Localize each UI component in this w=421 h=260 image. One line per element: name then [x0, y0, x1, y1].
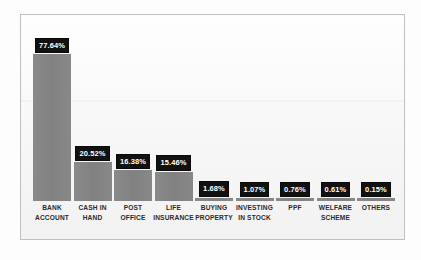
- bar-value-label: 77.64%: [35, 38, 69, 54]
- bar-group[interactable]: 0.76%: [276, 182, 314, 202]
- category-label: OTHERS: [349, 203, 403, 213]
- bar-value-label: 0.76%: [280, 182, 310, 198]
- bars-area: 77.64%BANKACCOUNT20.52%CASH INHAND16.38%…: [24, 14, 402, 240]
- category-label-line: OTHERS: [349, 203, 403, 213]
- bar-value-label: 0.15%: [361, 182, 391, 198]
- bar-group[interactable]: 20.52%: [74, 146, 112, 201]
- bar-chart-figure: 77.64%BANKACCOUNT20.52%CASH INHAND16.38%…: [0, 0, 421, 260]
- bar-rect[interactable]: [357, 198, 395, 201]
- bar-value-label: 15.46%: [156, 155, 190, 171]
- bar-group[interactable]: 15.46%: [155, 155, 193, 201]
- bar-value-label: 0.61%: [321, 182, 351, 198]
- bar-group[interactable]: 16.38%: [114, 154, 152, 201]
- bar-rect[interactable]: [317, 198, 355, 201]
- bar-rect[interactable]: [33, 54, 71, 201]
- bar-group[interactable]: 77.64%: [33, 38, 71, 201]
- bar-rect[interactable]: [195, 198, 233, 201]
- bar-rect[interactable]: [74, 162, 112, 201]
- bar-group[interactable]: 1.68%: [195, 181, 233, 201]
- category-label-line: IN STOCK: [228, 213, 282, 223]
- bar-group[interactable]: 1.07%: [236, 182, 274, 202]
- bar-rect[interactable]: [236, 198, 274, 201]
- bar-value-label: 16.38%: [116, 154, 150, 170]
- bar-rect[interactable]: [114, 170, 152, 201]
- bar-value-label: 20.52%: [75, 146, 109, 162]
- bar-group[interactable]: 0.61%: [317, 182, 355, 202]
- bar-rect[interactable]: [155, 172, 193, 201]
- bar-value-label: 1.68%: [199, 181, 229, 197]
- bar-value-label: 1.07%: [240, 182, 270, 198]
- category-label-line: SCHEME: [309, 213, 363, 223]
- bar-rect[interactable]: [276, 198, 314, 201]
- bar-group[interactable]: 0.15%: [357, 182, 395, 202]
